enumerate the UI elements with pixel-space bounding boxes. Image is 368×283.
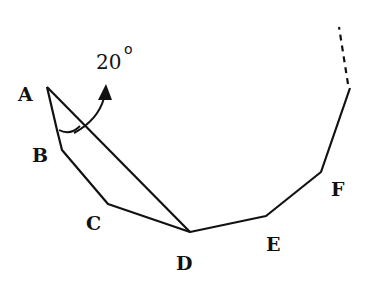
label-b: B xyxy=(32,144,48,166)
label-e: E xyxy=(266,233,280,255)
label-c: C xyxy=(86,212,101,234)
label-a: A xyxy=(17,83,33,105)
label-d: D xyxy=(176,252,192,274)
dashed-extension xyxy=(339,27,348,84)
arrow-head-icon xyxy=(98,84,112,100)
pendulum-path-diagram: A B C D E F 20 o xyxy=(0,0,368,283)
angle-value: 20 xyxy=(96,50,121,74)
angle-degree-symbol: o xyxy=(124,41,133,57)
path-polyline xyxy=(47,87,350,232)
chord-a-d xyxy=(47,87,190,232)
label-f: F xyxy=(331,178,345,200)
